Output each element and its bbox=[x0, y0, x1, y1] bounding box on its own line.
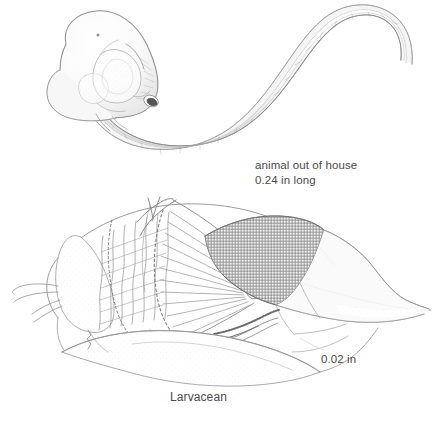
label-animal-out-of-house-line1: animal out of house bbox=[255, 159, 357, 171]
label-animal-size: 0.24 in long bbox=[255, 174, 316, 186]
figure-caption: Larvacean bbox=[170, 390, 227, 404]
ganglion-spot bbox=[97, 34, 100, 37]
label-house-scale: 0.02 in bbox=[321, 353, 356, 365]
illustration-canvas bbox=[0, 0, 438, 421]
larvacean-figure: animal out of house 0.24 in long 0.02 in… bbox=[0, 0, 438, 421]
